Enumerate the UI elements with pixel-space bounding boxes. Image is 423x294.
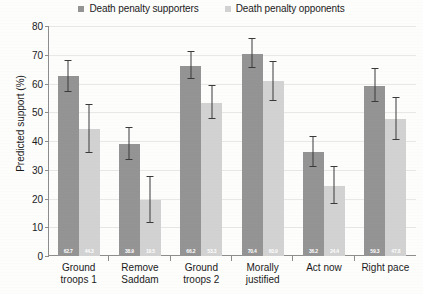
error-bar-cap [187,51,194,52]
error-bar-cap [126,159,133,160]
bar-value-label: 60.9 [263,248,284,254]
error-bar-cap [331,203,338,204]
x-axis-separator-tick [292,256,293,261]
bar-value-label: 36.2 [303,248,324,254]
error-bar-cap [392,139,399,140]
x-axis-tick-label: Act now [293,262,354,285]
x-axis-separator-tick [108,256,109,261]
bar-value-label: 24.4 [324,248,345,254]
bar-group: 59.347.8 [355,26,416,256]
bar-value-label: 47.8 [385,248,406,254]
legend-swatch-supporters [78,6,84,12]
bar[interactable]: 59.3 [364,86,385,256]
chart-legend: Death penalty supporters Death penalty o… [0,3,423,14]
bar-column[interactable]: 66.2 [180,26,201,256]
error-bar [313,137,314,167]
y-tick-label: 70 [32,49,43,60]
bar-group: 66.253.3 [171,26,232,256]
x-axis-tick-label: Morallyjustified [232,262,293,285]
x-axis-tick-label-line: Saddam [109,274,170,286]
bar-group: 62.744.3 [48,26,109,256]
error-bar-cap [86,152,93,153]
error-bar-cap [147,222,154,223]
x-axis-separator-tick [170,256,171,261]
bar-value-label: 62.7 [58,248,79,254]
y-tick-label: 0 [37,251,43,262]
y-tick-label: 60 [32,78,43,89]
plot-area: 01020304050607080 62.744.338.919.566.253… [48,26,416,256]
error-bar-cap [208,118,215,119]
error-bar-cap [249,38,256,39]
legend-item-supporters: Death penalty supporters [78,3,198,14]
x-axis-tick-label-line: Remove [109,262,170,274]
error-bar-cap [147,176,154,177]
legend-label-opponents: Death penalty opponents [236,3,345,14]
x-axis-tick-label-line: Ground [48,262,109,274]
error-bar [273,62,274,101]
x-axis-tick-label-line: Ground [171,262,232,274]
bar-chart: Death penalty supporters Death penalty o… [0,0,423,294]
y-tick-label: 10 [32,222,43,233]
bar-column[interactable]: 60.9 [263,26,284,256]
y-tick-label: 80 [32,21,43,32]
bar-column[interactable]: 62.7 [58,26,79,256]
bar-column[interactable]: 36.2 [303,26,324,256]
x-axis-separator-tick [354,256,355,261]
bar-value-label: 59.3 [364,248,385,254]
bar-column[interactable]: 47.8 [385,26,406,256]
bar[interactable]: 36.2 [303,152,324,256]
legend-item-opponents: Death penalty opponents [225,3,345,14]
y-tick-mark [45,256,49,257]
error-bar [334,167,335,204]
bar-group: 38.919.5 [109,26,170,256]
error-bar [395,98,396,140]
legend-label-supporters: Death penalty supporters [89,3,198,14]
bar-column[interactable]: 38.9 [119,26,140,256]
x-axis-tick-label-line: troops 1 [48,274,109,286]
bar-pair: 38.919.5 [109,26,170,256]
x-axis-tick-label: Groundtroops 2 [171,262,232,285]
error-bar-cap [187,78,194,79]
x-axis-separator-tick [231,256,232,261]
bar[interactable]: 38.9 [119,144,140,256]
error-bar [190,52,191,79]
bar[interactable]: 70.4 [242,54,263,256]
error-bar-cap [310,136,317,137]
bar-pair: 62.744.3 [48,26,109,256]
bar-column[interactable]: 53.3 [201,26,222,256]
x-axis-tick-label: Right pace [355,262,416,285]
y-tick-label: 30 [32,164,43,175]
bar-column[interactable]: 59.3 [364,26,385,256]
y-tick-label: 20 [32,193,43,204]
x-axis-tick-label-line: justified [232,274,293,286]
bar[interactable]: 53.3 [201,103,222,256]
x-axis-tick-label-line: Act now [293,262,354,274]
x-axis-tick-label: RemoveSaddam [109,262,170,285]
error-bar-cap [371,68,378,69]
error-bar-cap [270,61,277,62]
bar-value-label: 53.3 [201,248,222,254]
bar-column[interactable]: 24.4 [324,26,345,256]
x-axis-tick-labels: Groundtroops 1RemoveSaddamGroundtroops 2… [48,262,416,285]
error-bar-cap [65,91,72,92]
x-axis-tick-label-line: Morally [232,262,293,274]
error-bar-cap [249,67,256,68]
bar[interactable]: 60.9 [263,81,284,256]
error-bar [252,39,253,68]
error-bar-cap [371,101,378,102]
error-bar [68,61,69,93]
y-axis-title: Predicted support (%) [15,44,26,204]
bar-pair: 66.253.3 [171,26,232,256]
bar[interactable]: 66.2 [180,66,201,256]
x-axis-tick-label-line: Right pace [355,262,416,274]
bar-pair: 59.347.8 [355,26,416,256]
bar[interactable]: 62.7 [58,76,79,256]
bar-column[interactable]: 19.5 [140,26,161,256]
bar-column[interactable]: 44.3 [79,26,100,256]
error-bar-cap [208,85,215,86]
bar-column[interactable]: 70.4 [242,26,263,256]
error-bar [89,105,90,152]
bar-pair: 70.460.9 [232,26,293,256]
bar-group: 36.224.4 [293,26,354,256]
error-bar-cap [392,97,399,98]
